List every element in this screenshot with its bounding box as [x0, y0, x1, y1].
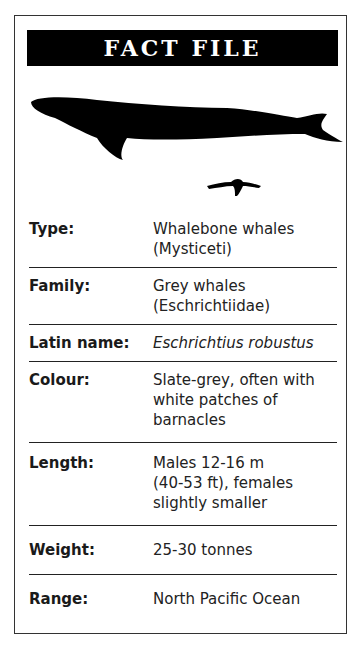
fact-row-length: Length: Males 12-16 m (40-53 ft), female… [29, 442, 337, 525]
fact-value: 25-30 tonnes [153, 540, 337, 560]
fact-row-range: Range: North Pacific Ocean [29, 574, 337, 619]
illustration [27, 78, 347, 198]
fact-value: Grey whales (Eschrichtiidae) [153, 276, 337, 316]
fact-label: Type: [29, 219, 153, 259]
fact-label: Length: [29, 453, 153, 513]
fact-row-type: Type: Whalebone whales (Mysticeti) [29, 211, 337, 267]
facts-table: Type: Whalebone whales (Mysticeti) Famil… [29, 211, 337, 619]
fact-label: Latin name: [29, 333, 153, 353]
fact-row-latin-name: Latin name: Eschrichtius robustus [29, 324, 337, 361]
fact-value: Eschrichtius robustus [153, 333, 337, 353]
fact-label: Colour: [29, 370, 153, 430]
fact-label: Range: [29, 589, 153, 609]
fact-value: Whalebone whales (Mysticeti) [153, 219, 337, 259]
fact-row-family: Family: Grey whales (Eschrichtiidae) [29, 267, 337, 324]
fact-label: Family: [29, 276, 153, 316]
fact-file-card: FACT FILE Type: Whalebone whales (Mystic… [14, 15, 347, 634]
whale-icon [31, 97, 343, 160]
fact-value: Slate-grey, often with white patches of … [153, 370, 337, 430]
fact-label: Weight: [29, 540, 153, 560]
diver-icon [207, 179, 261, 196]
fact-file-header: FACT FILE [27, 30, 338, 66]
fact-row-weight: Weight: 25-30 tonnes [29, 525, 337, 574]
fact-value: North Pacific Ocean [153, 589, 337, 609]
fact-value: Males 12-16 m (40-53 ft), females slight… [153, 453, 337, 513]
header-title: FACT FILE [103, 35, 261, 61]
fact-row-colour: Colour: Slate-grey, often with white pat… [29, 361, 337, 442]
